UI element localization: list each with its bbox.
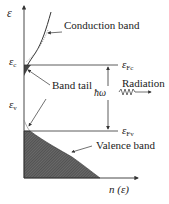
quasi-fermi-conduction-label: εFc: [122, 59, 133, 72]
conduction-band-pointer: [48, 32, 62, 33]
conduction-band-curve: [27, 12, 51, 66]
conduction-edge-subscript: c: [13, 61, 16, 69]
band-tail-region: [24, 65, 31, 76]
band-diagram: ε Conduction band εc εFc Band tail Radia…: [0, 0, 169, 204]
density-axis-label: n (ε): [109, 184, 129, 195]
energy-axis-label: ε: [7, 7, 12, 19]
quasi-fermi-valence-subscript: Fv: [126, 130, 133, 138]
quasi-fermi-conduction-subscript: Fc: [126, 64, 133, 72]
valence-edge-label: εv: [9, 99, 17, 112]
ideal-parabola-dotted: [26, 30, 48, 62]
conduction-edge-label: εc: [9, 56, 16, 69]
band-tail-pointer: [28, 70, 50, 85]
radiation-label: Radiation: [122, 78, 165, 89]
radiation-wave-icon: [119, 89, 144, 95]
band-tail-label: Band tail: [52, 80, 92, 91]
quasi-fermi-valence-label: εFv: [122, 125, 134, 138]
valence-band-pointer: [72, 146, 92, 152]
valence-band-region: [24, 131, 100, 178]
band-tail-pointer-valence: [29, 99, 46, 126]
conduction-band-label: Conduction band: [64, 20, 139, 31]
valence-band-label: Valence band: [96, 140, 155, 151]
valence-edge-subscript: v: [13, 104, 17, 112]
photon-energy-label: ħω: [94, 88, 106, 98]
